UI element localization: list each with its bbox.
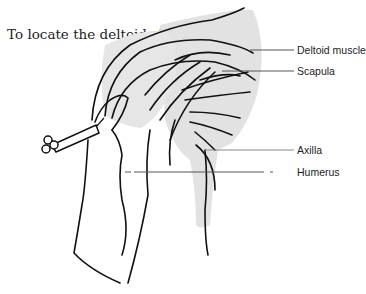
label-scapula: Scapula (297, 65, 335, 77)
label-deltoid-muscle: Deltoid muscle (297, 44, 366, 56)
label-humerus: Humerus (297, 166, 340, 178)
syringe-icon (42, 118, 104, 153)
shoulder-shading (160, 10, 262, 228)
label-axilla: Axilla (297, 144, 322, 156)
